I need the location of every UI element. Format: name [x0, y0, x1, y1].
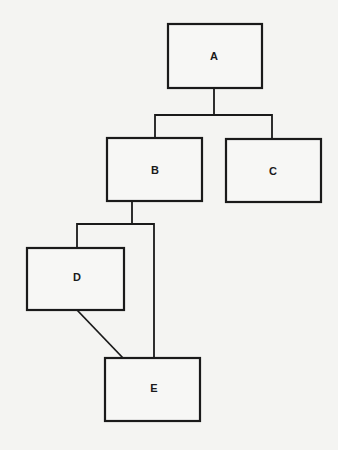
- node-e: E: [105, 358, 200, 421]
- edge-a-to-c: [214, 115, 272, 139]
- edge-d-to-e: [77, 310, 123, 358]
- edges: [77, 88, 272, 358]
- node-b: B: [107, 138, 202, 201]
- edge-a-to-b: [155, 88, 214, 138]
- node-d: D: [27, 248, 124, 310]
- node-d-label: D: [73, 271, 81, 283]
- node-b-label: B: [151, 164, 159, 176]
- hierarchy-diagram: A B C D E: [0, 0, 338, 450]
- node-a: A: [168, 24, 262, 88]
- node-c-label: C: [269, 165, 277, 177]
- node-c: C: [226, 139, 321, 202]
- node-a-label: A: [210, 50, 218, 62]
- node-e-label: E: [150, 382, 157, 394]
- edge-b-to-d: [77, 201, 132, 248]
- edge-b-to-e: [132, 224, 154, 358]
